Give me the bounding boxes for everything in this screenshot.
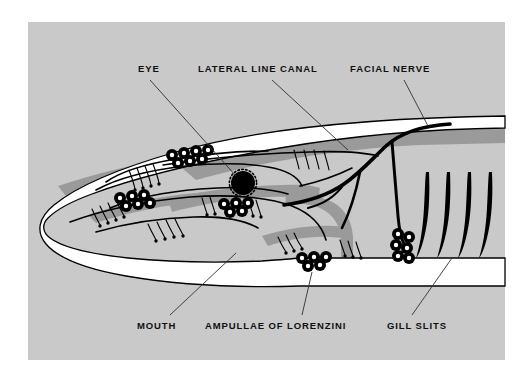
tubule — [324, 151, 329, 170]
tubule — [356, 242, 361, 257]
gill-slit — [479, 172, 492, 258]
throat-shading — [262, 226, 344, 246]
gill-slit — [416, 172, 429, 258]
tubule — [148, 224, 156, 240]
tubule — [175, 219, 183, 235]
label-facial-nerve: FACIAL NERVE — [350, 64, 430, 74]
gill-slits-group — [416, 172, 492, 258]
label-lateral-line-canal: LATERAL LINE CANAL — [198, 64, 318, 74]
ampullae-cluster — [390, 228, 415, 264]
figure-root: EYE LATERAL LINE CANAL FACIAL NERVE MOUT… — [0, 0, 531, 380]
ampullae-cluster — [218, 197, 254, 218]
tubule — [157, 222, 165, 238]
gill-slit — [437, 172, 450, 258]
label-mouth: MOUTH — [137, 321, 176, 331]
gill-slit — [458, 172, 471, 258]
tubule — [166, 220, 174, 236]
tubule — [256, 200, 261, 216]
label-gill-slits: GILL SLITS — [387, 321, 447, 331]
label-eye: EYE — [138, 64, 160, 74]
label-ampullae-of-lorenzini: AMPULLAE OF LORENZINI — [205, 321, 346, 331]
